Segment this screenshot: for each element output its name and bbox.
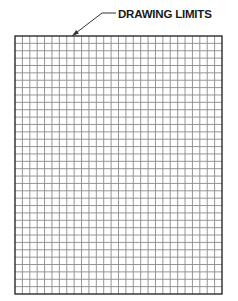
leader-line <box>72 13 116 36</box>
grid-lines <box>15 36 222 294</box>
drawing-limits-label: DRAWING LIMITS <box>118 8 212 20</box>
drawing-limits-diagram <box>0 0 238 301</box>
